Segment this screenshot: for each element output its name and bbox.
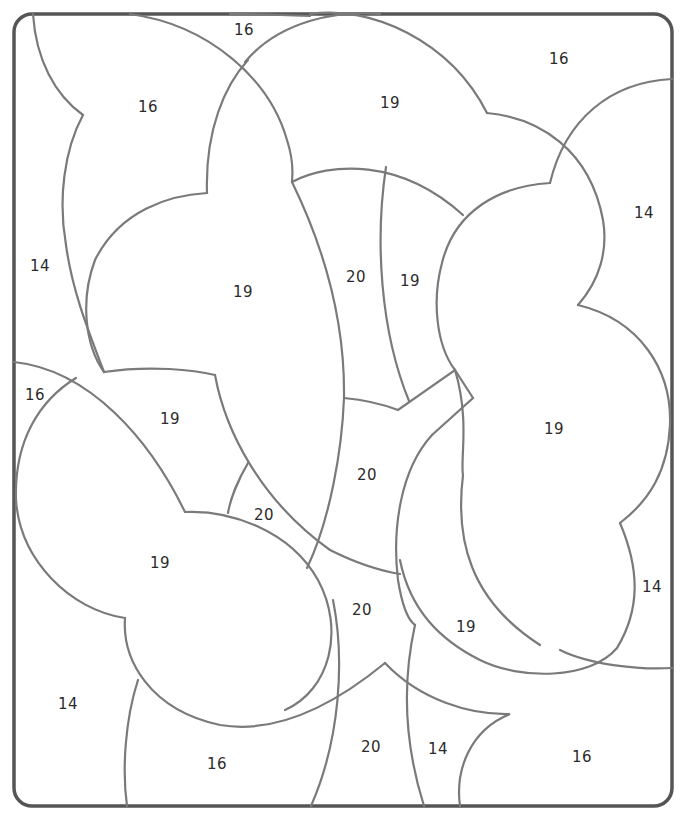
outline-right-flower-top [437, 79, 672, 370]
region-number-14[interactable]: 14 [642, 578, 662, 596]
region-number-14[interactable]: 14 [58, 695, 78, 713]
outline-center-band-top [292, 169, 463, 215]
outline-bottom-mid-1 [396, 435, 432, 806]
region-number-19[interactable]: 19 [456, 618, 476, 636]
region-number-16[interactable]: 16 [234, 21, 254, 39]
region-number-14[interactable]: 14 [30, 257, 50, 275]
region-number-14[interactable]: 14 [634, 204, 654, 222]
region-number-16[interactable]: 16 [138, 98, 158, 116]
region-number-19[interactable]: 19 [150, 554, 170, 572]
region-number-20[interactable]: 20 [346, 268, 366, 286]
outline-top-left-petal [33, 14, 104, 372]
coloring-canvas [0, 0, 685, 820]
outline-center-left-curve [292, 182, 344, 568]
outline-right-flower-bottom [400, 523, 635, 674]
region-number-19[interactable]: 19 [544, 420, 564, 438]
region-number-16[interactable]: 16 [25, 386, 45, 404]
region-number-16[interactable]: 16 [207, 755, 227, 773]
region-number-20[interactable]: 20 [352, 601, 372, 619]
outline-right-flower-right [578, 305, 670, 523]
region-number-16[interactable]: 16 [549, 50, 569, 68]
region-number-19[interactable]: 19 [233, 283, 253, 301]
region-number-16[interactable]: 16 [572, 748, 592, 766]
outline-bottom-mid-2 [385, 663, 510, 806]
outline-small-20 [228, 463, 248, 513]
outline-right-bottom-curve [560, 650, 672, 668]
region-number-14[interactable]: 14 [428, 740, 448, 758]
outline-top-right-lobe [487, 113, 604, 305]
region-number-20[interactable]: 20 [361, 738, 381, 756]
region-number-20[interactable]: 20 [254, 506, 274, 524]
outline-right-inner [455, 370, 540, 645]
outline-top-middle-left-lobe [86, 60, 248, 372]
outline-center-notch [344, 370, 473, 435]
region-number-19[interactable]: 19 [160, 410, 180, 428]
outline-bottom-left-16 [125, 680, 138, 806]
region-number-19[interactable]: 19 [380, 94, 400, 112]
region-outlines [14, 13, 672, 806]
region-number-20[interactable]: 20 [357, 466, 377, 484]
region-number-19[interactable]: 19 [400, 272, 420, 290]
outline-bottom-left-flower [16, 378, 385, 727]
outline-top-middle-arc [245, 13, 487, 113]
